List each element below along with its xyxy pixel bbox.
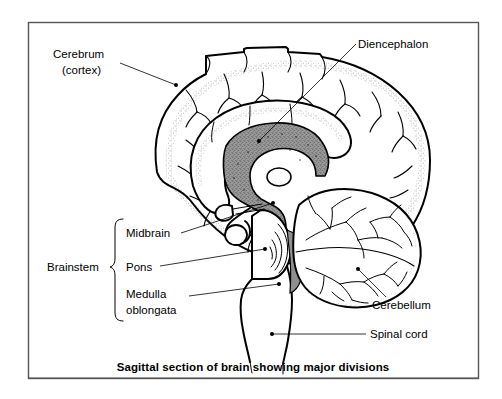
brainstem-brace (110, 219, 123, 321)
spinal-cord-point (270, 332, 274, 336)
diencephalon-point (257, 139, 261, 143)
label-cerebrum-line2: (cortex) (62, 64, 101, 76)
figure-root: Cerebrum (cortex) Diencephalon Brainstem… (0, 0, 502, 399)
label-cerebellum: Cerebellum (372, 299, 431, 311)
massa-intermedia (267, 168, 291, 186)
pituitary-gland (225, 225, 247, 245)
label-medulla-line2: oblongata (126, 304, 177, 316)
label-brainstem: Brainstem (47, 261, 99, 273)
medulla-point (277, 282, 281, 286)
label-diencephalon: Diencephalon (358, 38, 428, 50)
figure-caption: Sagittal section of brain showing major … (117, 361, 390, 373)
label-medulla-line1: Medulla (126, 288, 167, 300)
label-midbrain: Midbrain (126, 227, 170, 239)
cerebellum-point (356, 267, 360, 271)
pons-point (263, 247, 267, 251)
label-cerebrum-line1: Cerebrum (53, 48, 104, 60)
label-spinal-cord: Spinal cord (370, 328, 428, 340)
label-pons: Pons (126, 261, 152, 273)
cerebrum-point (174, 83, 178, 87)
midbrain-point (271, 201, 275, 205)
